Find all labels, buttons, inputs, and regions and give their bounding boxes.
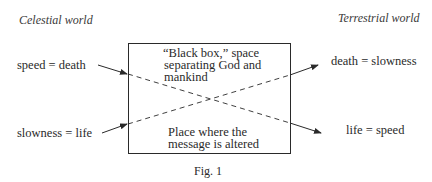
box-top-text-line3: mankind — [164, 71, 208, 83]
label-speed-death: speed = death — [17, 58, 86, 73]
label-death-slowness: death = slowness — [331, 54, 417, 69]
dashed-line-speed-to-life — [128, 74, 290, 123]
arrow-death-slowness-out — [290, 65, 318, 75]
dashed-line-slowness-to-death — [128, 75, 290, 124]
label-slowness-life: slowness = life — [17, 126, 92, 141]
arrow-life-speed-out — [290, 123, 321, 133]
celestial-world-heading: Celestial world — [19, 13, 93, 28]
label-life-speed: life = speed — [346, 123, 404, 138]
box-bottom-text-line2: message is altered — [168, 138, 259, 150]
arrow-speed-death-in — [98, 65, 127, 74]
figure-caption: Fig. 1 — [194, 164, 222, 179]
terrestrial-world-heading: Terrestrial world — [338, 11, 419, 26]
arrow-slowness-life-in — [102, 124, 127, 133]
